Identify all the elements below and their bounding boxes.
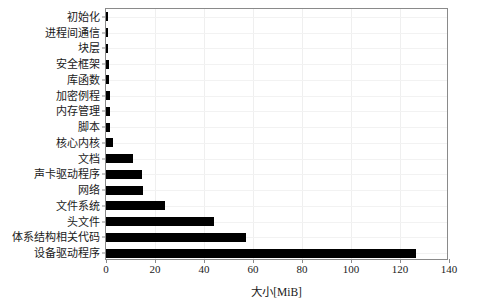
bar bbox=[106, 60, 109, 69]
y-tick-label: 设备驱动程序 bbox=[34, 248, 106, 259]
bar bbox=[106, 138, 113, 147]
gridline-horizontal bbox=[106, 190, 447, 191]
gridline-horizontal bbox=[106, 48, 447, 49]
y-tick-label: 核心内核 bbox=[56, 137, 106, 148]
x-tick-label: 100 bbox=[343, 264, 360, 275]
bar bbox=[106, 28, 108, 37]
bar bbox=[106, 233, 246, 242]
gridline-horizontal bbox=[106, 17, 447, 18]
y-tick-label: 进程间通信 bbox=[45, 27, 106, 38]
x-tick-label: 80 bbox=[297, 264, 308, 275]
y-tick-label: 库函数 bbox=[67, 74, 106, 85]
bar-chart: 初始化进程间通信块层安全框架库函数加密例程内存管理脚本核心内核文档声卡驱动程序网… bbox=[0, 0, 482, 306]
y-tick-label: 体系结构相关代码 bbox=[12, 232, 106, 243]
gridline-horizontal bbox=[106, 96, 447, 97]
gridline-horizontal bbox=[106, 111, 447, 112]
x-tick-label: 120 bbox=[392, 264, 409, 275]
y-tick-label: 安全框架 bbox=[56, 59, 106, 70]
bar bbox=[106, 249, 416, 258]
y-tick-label: 块层 bbox=[78, 43, 106, 54]
bar bbox=[106, 201, 165, 210]
bar bbox=[106, 44, 108, 53]
x-tick-label: 140 bbox=[441, 264, 458, 275]
gridline-horizontal bbox=[106, 143, 447, 144]
y-tick-label: 网络 bbox=[78, 185, 106, 196]
y-tick-label: 脚本 bbox=[78, 122, 106, 133]
bar bbox=[106, 123, 110, 132]
y-tick-label: 文件系统 bbox=[56, 200, 106, 211]
gridline-horizontal bbox=[106, 127, 447, 128]
gridline-horizontal bbox=[106, 174, 447, 175]
x-tick-label: 20 bbox=[150, 264, 161, 275]
bar bbox=[106, 154, 133, 163]
bar bbox=[106, 91, 110, 100]
bar bbox=[106, 170, 142, 179]
plot-area: 初始化进程间通信块层安全框架库函数加密例程内存管理脚本核心内核文档声卡驱动程序网… bbox=[105, 8, 448, 260]
x-tick-label: 40 bbox=[199, 264, 210, 275]
y-tick-label: 初始化 bbox=[67, 11, 106, 22]
x-tick-label: 0 bbox=[103, 264, 109, 275]
y-tick-label: 加密例程 bbox=[56, 90, 106, 101]
gridline-horizontal bbox=[106, 64, 447, 65]
gridline-horizontal bbox=[106, 159, 447, 160]
bar bbox=[106, 75, 109, 84]
bar bbox=[106, 186, 143, 195]
gridline-horizontal bbox=[106, 33, 447, 34]
x-tick-label: 60 bbox=[248, 264, 259, 275]
x-axis-title: 大小[MiB] bbox=[105, 283, 448, 299]
y-tick-label: 文档 bbox=[78, 153, 106, 164]
bar bbox=[106, 217, 214, 226]
y-tick-label: 声卡驱动程序 bbox=[34, 169, 106, 180]
bar bbox=[106, 107, 110, 116]
y-tick-label: 内存管理 bbox=[56, 106, 106, 117]
gridline-horizontal bbox=[106, 80, 447, 81]
y-tick-label: 头文件 bbox=[67, 216, 106, 227]
bar bbox=[106, 12, 108, 21]
